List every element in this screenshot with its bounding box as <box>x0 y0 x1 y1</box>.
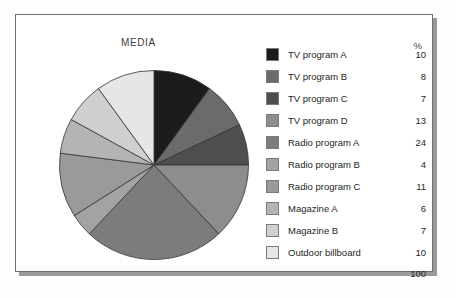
legend-item[interactable]: Radio program C11 <box>266 175 426 197</box>
page-title: MEDIA <box>121 37 156 48</box>
legend-item[interactable]: TV program B8 <box>266 65 426 87</box>
legend-item-value: 10 <box>400 49 426 60</box>
legend-item-label: TV program D <box>288 115 400 126</box>
legend-item-label: Outdoor billboard <box>288 247 400 258</box>
legend-item-value: 7 <box>400 225 426 236</box>
legend-color-swatch <box>266 224 279 237</box>
legend-rows: TV program A10TV program B8TV program C7… <box>266 43 426 263</box>
legend-item-value: 4 <box>400 159 426 170</box>
legend-item-label: Magazine B <box>288 225 400 236</box>
legend-item-value: 11 <box>400 181 426 192</box>
screenshot-root: MEDIA % TV program A10TV program B8TV pr… <box>0 0 456 298</box>
legend: TV program A10TV program B8TV program C7… <box>266 43 426 283</box>
legend-item-value: 7 <box>400 93 426 104</box>
legend-item[interactable]: Magazine B7 <box>266 219 426 241</box>
legend-color-swatch <box>266 202 279 215</box>
legend-color-swatch <box>266 70 279 83</box>
legend-item[interactable]: Magazine A6 <box>266 197 426 219</box>
legend-total-value: 100 <box>394 268 426 279</box>
legend-item-value: 10 <box>400 247 426 258</box>
legend-item-label: Radio program C <box>288 181 400 192</box>
legend-item[interactable]: Radio program A24 <box>266 131 426 153</box>
legend-item-value: 6 <box>400 203 426 214</box>
legend-item[interactable]: Outdoor billboard10 <box>266 241 426 263</box>
legend-item-label: TV program A <box>288 49 400 60</box>
legend-color-swatch <box>266 48 279 61</box>
legend-item-label: TV program B <box>288 71 400 82</box>
chart-panel: MEDIA % TV program A10TV program B8TV pr… <box>15 14 433 272</box>
legend-color-swatch <box>266 180 279 193</box>
legend-item-label: Magazine A <box>288 203 400 214</box>
legend-item-label: TV program C <box>288 93 400 104</box>
pie-chart <box>58 69 250 261</box>
legend-item-value: 13 <box>400 115 426 126</box>
legend-item[interactable]: TV program C7 <box>266 87 426 109</box>
pie-svg <box>58 69 250 261</box>
legend-item-label: Radio program A <box>288 137 400 148</box>
legend-color-swatch <box>266 158 279 171</box>
legend-color-swatch <box>266 92 279 105</box>
legend-item[interactable]: Radio program B4 <box>266 153 426 175</box>
legend-item[interactable]: TV program D13 <box>266 109 426 131</box>
legend-item-label: Radio program B <box>288 159 400 170</box>
legend-total-row: 100 <box>266 263 426 283</box>
legend-item-value: 8 <box>400 71 426 82</box>
legend-item[interactable]: TV program A10 <box>266 43 426 65</box>
legend-color-swatch <box>266 114 279 127</box>
legend-color-swatch <box>266 136 279 149</box>
legend-item-value: 24 <box>400 137 426 148</box>
legend-color-swatch <box>266 246 279 259</box>
pie-slice-group <box>60 71 249 260</box>
